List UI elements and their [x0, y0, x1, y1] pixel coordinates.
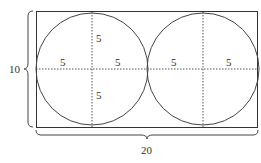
radius-label-c2-left: 5	[171, 56, 177, 68]
radius-label-c1-bottom: 5	[96, 89, 102, 101]
height-brace	[24, 11, 33, 127]
diagram-canvas: 10 20 5 5 5 5 5 5	[0, 0, 261, 163]
radius-label-c1-top: 5	[96, 32, 102, 44]
width-label: 20	[141, 144, 153, 156]
radius-label-c2-right: 5	[226, 56, 232, 68]
width-brace	[36, 130, 258, 139]
height-label: 10	[9, 63, 21, 75]
radius-label-c1-left: 5	[60, 56, 66, 68]
radius-label-c1-right: 5	[115, 56, 121, 68]
